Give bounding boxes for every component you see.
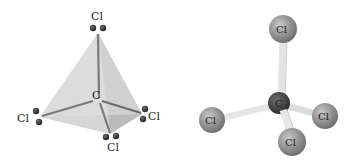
- lone-pair-top: [90, 25, 106, 31]
- atom-cl-right: Cl: [312, 103, 338, 129]
- svg-text:C: C: [275, 98, 283, 109]
- atom-label-cl-left: Cl: [17, 112, 29, 125]
- ball-and-stick-model: Cl Cl Cl C Cl: [199, 15, 338, 156]
- svg-text:Cl: Cl: [276, 24, 287, 35]
- tetrahedron-model: C Cl Cl Cl Cl: [17, 10, 160, 154]
- lone-pair-bottom: [103, 133, 119, 140]
- stick-c-cl-left: [218, 105, 275, 119]
- atom-label-cl-right: Cl: [148, 110, 160, 123]
- svg-text:Cl: Cl: [205, 115, 216, 126]
- stick-c-cl-top: [281, 38, 283, 100]
- atom-cl-top: Cl: [269, 15, 297, 43]
- svg-text:Cl: Cl: [285, 137, 296, 148]
- svg-text:Cl: Cl: [318, 111, 329, 122]
- atom-label-cl-bottom: Cl: [107, 141, 119, 154]
- atom-label-cl-top: Cl: [91, 10, 103, 23]
- ccl4-diagram: C Cl Cl Cl Cl Cl Cl Cl C: [0, 0, 355, 165]
- atom-cl-bottom: Cl: [278, 128, 306, 156]
- atom-cl-left: Cl: [199, 107, 225, 133]
- tetrahedron-face-back: [40, 33, 142, 117]
- atom-label-c: C: [92, 89, 100, 102]
